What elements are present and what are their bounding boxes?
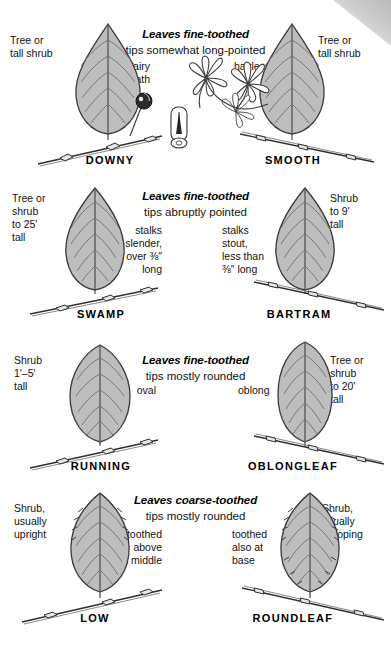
row1-left-habit: Tree ortall shrub [10,34,70,60]
row3-left-leaf [62,342,138,446]
row3-left-habit: Shrub1'–5'tall [14,354,68,393]
row2-left-species: SWAMP [26,308,176,320]
row1-left-species: DOWNY [35,154,185,166]
leaf-identification-chart: Leaves fine-toothed tips somewhat long-p… [0,0,391,661]
row4-left-species: LOW [20,612,170,624]
row3-right-species: OBLONGLEAF [218,460,368,472]
row2-left-leaf [58,186,132,294]
row2-right-species: BARTRAM [224,308,374,320]
chart-row-2: Leaves fine-toothed tips abruptly pointe… [0,176,391,336]
row1-right-species: SMOOTH [218,154,368,166]
row4-right-species: ROUNDLEAF [218,612,368,624]
chart-row-3: Leaves fine-toothed tips mostly rounded … [0,336,391,486]
row3-left-species: RUNNING [26,460,176,472]
row4-left-leaf [62,490,138,598]
flower-cluster-icon [180,56,276,134]
chart-row-4: Leaves coarse-toothed tips mostly rounde… [0,486,391,636]
chart-row-1: Leaves fine-toothed tips somewhat long-p… [0,4,391,176]
